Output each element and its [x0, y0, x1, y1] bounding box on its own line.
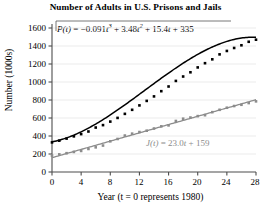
prison-trend-curve: [52, 37, 256, 142]
equation-bracket: [56, 21, 231, 31]
jail-data-points: [51, 100, 258, 157]
gridlines: [52, 28, 256, 154]
axis-ticks: [49, 28, 257, 176]
plot-canvas: [0, 0, 271, 214]
chart-figure: Number of Adults in U.S. Prisons and Jai…: [0, 0, 271, 214]
